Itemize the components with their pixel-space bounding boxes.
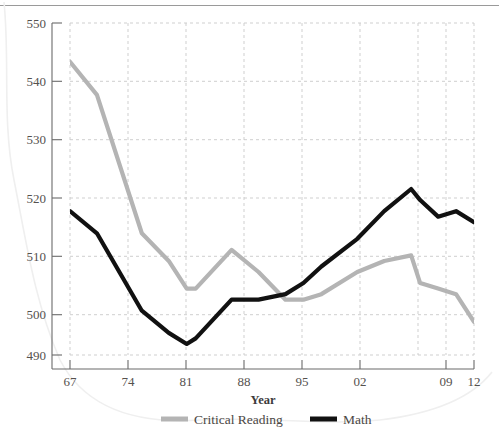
x-tick-label: 88 [238, 374, 251, 389]
x-tick-label: 12 [468, 374, 481, 389]
x-tick-label: 67 [64, 374, 78, 389]
y-tick-label: 500 [27, 307, 47, 322]
y-tick-label: 490 [27, 348, 47, 363]
legend-label-critical-reading: Critical Reading [194, 412, 283, 427]
y-tick-label: 540 [27, 74, 47, 89]
legend: Critical Reading Math [161, 412, 372, 427]
y-tick-label: 520 [27, 191, 47, 206]
chart-figure: 550 540 530 520 510 500 490 67 74 81 [0, 0, 499, 437]
y-axis: 550 540 530 520 510 500 490 [27, 16, 63, 370]
x-tick-label: 09 [440, 374, 453, 389]
y-tick-label: 510 [27, 249, 47, 264]
x-tick-label: 95 [296, 374, 309, 389]
legend-label-math: Math [343, 412, 372, 427]
x-tick-label: 02 [354, 374, 367, 389]
x-tick-label: 74 [122, 374, 136, 389]
x-tick-label: 81 [180, 374, 193, 389]
y-tick-label: 550 [27, 16, 47, 31]
data-series-group [70, 62, 474, 344]
x-axis: 67 74 81 88 95 02 09 12 [52, 360, 481, 389]
y-tick-label: 530 [27, 132, 47, 147]
x-axis-title: Year [251, 393, 276, 407]
chart-canvas: 550 540 530 520 510 500 490 67 74 81 [0, 0, 499, 437]
